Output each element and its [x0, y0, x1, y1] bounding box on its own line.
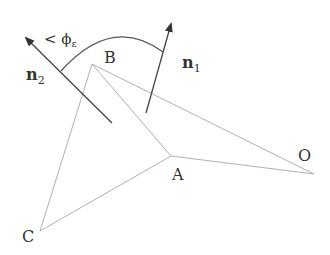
- vector-label-n2: n2: [26, 65, 45, 87]
- normal-vector-n1: [146, 24, 171, 113]
- edge-b-o: [92, 64, 314, 174]
- edge-b-a: [92, 64, 171, 156]
- angle-label: < ϕε: [44, 30, 77, 49]
- geometry-diagram: < ϕε n2 n1 B A O C: [0, 0, 330, 255]
- vector-label-n1: n1: [182, 53, 201, 75]
- point-label-o: O: [298, 146, 311, 165]
- point-label-a: A: [171, 165, 184, 184]
- point-label-b: B: [104, 48, 116, 67]
- edge-a-o: [171, 156, 314, 174]
- point-label-c: C: [22, 227, 34, 246]
